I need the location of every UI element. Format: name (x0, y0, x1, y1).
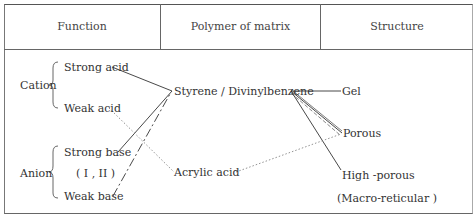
anion-label: Anion (20, 168, 52, 179)
weak-acid-label: Weak acid (64, 103, 121, 114)
porous-label: Porous (343, 128, 381, 139)
strong-acid-label: Strong acid (64, 62, 129, 73)
gel-label: Gel (342, 86, 361, 97)
high-porous-label: High -porous (342, 170, 415, 181)
acrylic-acid-label: Acrylic acid (174, 167, 240, 178)
macro-reticular-label: (Macro-reticular ) (337, 193, 437, 204)
weak-base-label: Weak base (64, 191, 123, 202)
anion-type-label: ( I , II ) (76, 168, 115, 179)
strong-base-label: Strong base (64, 147, 131, 158)
cation-label: Cation (20, 80, 57, 91)
styrene-divinylbenzene-label: Styrene / Divinylbenzene (174, 86, 314, 97)
